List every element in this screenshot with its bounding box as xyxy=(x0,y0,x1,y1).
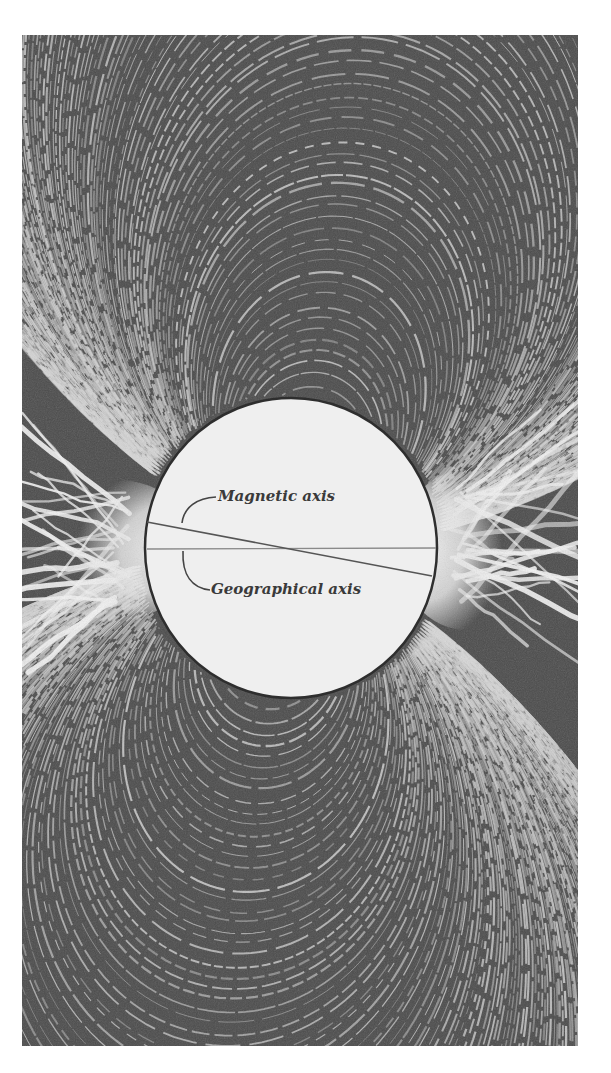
geographical-axis-label: Geographical axis xyxy=(211,580,362,598)
magnetic-axis-label: Magnetic axis xyxy=(217,487,336,505)
earth-magnetic-field-figure: Magnetic axis Geographical axis xyxy=(22,35,578,1046)
magnetic-field-lines-illustration: Magnetic axis Geographical axis xyxy=(22,35,578,1046)
